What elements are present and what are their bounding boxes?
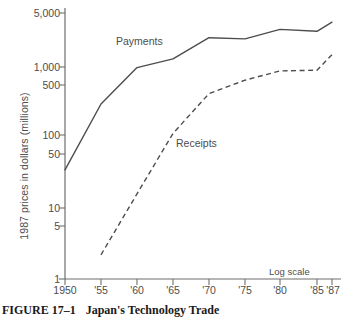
y-axis-ticks	[59, 13, 65, 279]
x-tick-label: '60	[130, 285, 144, 296]
x-tick-label: '70	[202, 285, 216, 296]
x-tick-label: '75	[238, 285, 252, 296]
figure-caption-number: FIGURE 17–1	[2, 303, 76, 317]
x-tick-label: '65	[166, 285, 180, 296]
x-tick-label: '85	[310, 285, 324, 296]
figure-caption: FIGURE 17–1Japan's Technology Trade	[2, 303, 219, 318]
x-tick-label: 1950	[53, 285, 76, 296]
log-scale-note: Log scale	[269, 267, 310, 277]
x-tick-label: '80	[273, 285, 287, 296]
x-tick-label: '87	[326, 285, 340, 296]
series-label-payments: Payments	[116, 36, 163, 47]
x-tick-label: '55	[94, 285, 108, 296]
series-label-receipts: Receipts	[176, 138, 217, 149]
series-line-receipts	[101, 55, 332, 255]
x-axis-tick-labels: 1950 '55 '60 '65 '70 '75 '80 '85 '87	[0, 285, 345, 301]
figure-caption-title: Japan's Technology Trade	[86, 303, 220, 317]
figure-container: 1987 prices in dollars (millions) 5,000 …	[0, 0, 345, 321]
